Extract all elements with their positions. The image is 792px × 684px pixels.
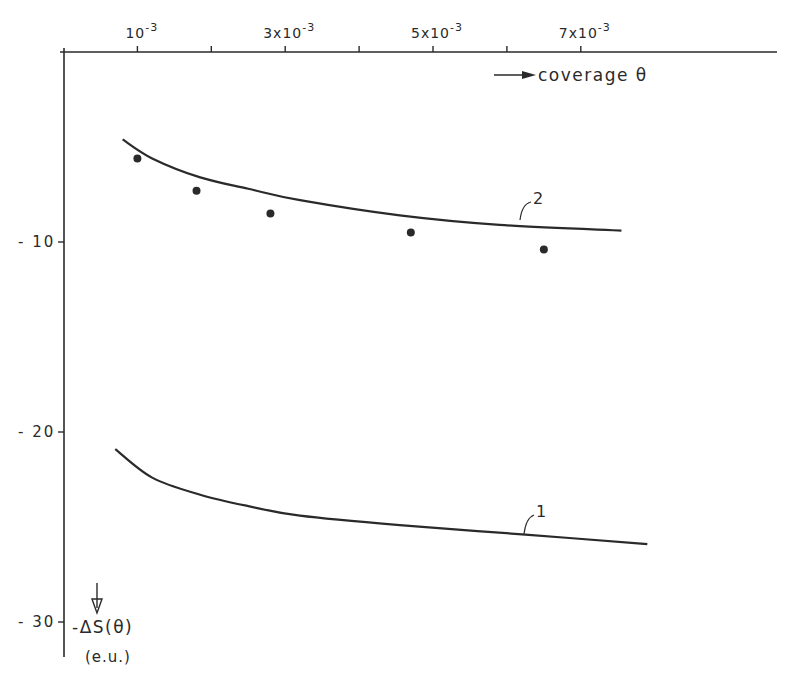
x-ticks — [137, 46, 580, 52]
curve-2 — [123, 139, 622, 230]
y-tick-label: - 10 — [18, 233, 55, 251]
x-axis-label: coverage θ — [494, 65, 648, 85]
x-tick-label: 10-3 — [125, 21, 158, 41]
data-point — [407, 229, 415, 237]
y-tick-label: - 20 — [18, 423, 55, 441]
y-tick-labels: - 10- 20- 30 — [18, 233, 55, 631]
chart: 10-33x10-35x10-37x10-3 - 10- 20- 30 cove… — [0, 0, 792, 684]
series — [115, 139, 647, 544]
curve-label-1: 1 — [524, 502, 546, 534]
y-axis-label: -ΔS(θ) (e.u.) — [72, 583, 133, 666]
x-tick-label: 3x10-3 — [263, 21, 315, 41]
y-tick-label: - 30 — [18, 613, 55, 631]
x-tick-label: 7x10-3 — [559, 21, 611, 41]
data-point — [133, 154, 141, 162]
x-tick-label: 5x10-3 — [411, 21, 463, 41]
axes — [60, 48, 777, 657]
data-point — [540, 246, 548, 254]
x-tick-labels: 10-33x10-35x10-37x10-3 — [125, 21, 610, 41]
curve-1 — [115, 449, 647, 544]
y-axis-unit: (e.u.) — [85, 648, 131, 666]
data-point — [193, 187, 201, 195]
svg-text:2: 2 — [533, 189, 543, 208]
svg-text:1: 1 — [536, 502, 546, 521]
x-axis-title: coverage θ — [538, 65, 648, 85]
y-axis-title: -ΔS(θ) — [72, 617, 133, 637]
y-ticks — [58, 242, 64, 622]
arrow-head-icon — [522, 71, 536, 79]
data-point — [266, 210, 274, 218]
curve-label-2: 2 — [520, 189, 543, 220]
